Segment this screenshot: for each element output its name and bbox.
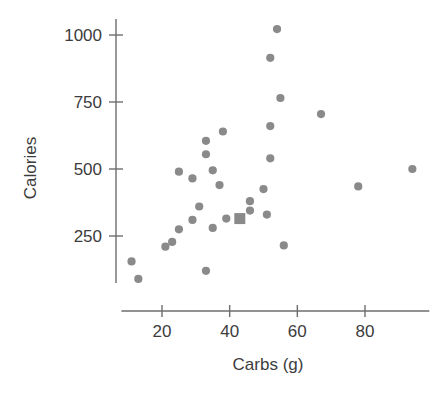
data-point: [195, 202, 203, 210]
x-axis-tick-label: 80: [356, 322, 375, 341]
x-axis: 20406080: [121, 305, 429, 341]
data-point: [202, 267, 210, 275]
y-axis-tick-label: 250: [74, 227, 102, 246]
y-axis-tick-label: 1000: [64, 26, 102, 45]
data-point: [280, 241, 288, 249]
data-point: [188, 174, 196, 182]
y-axis-tick-label: 750: [74, 93, 102, 112]
data-point: [202, 137, 210, 145]
data-point: [188, 216, 196, 224]
data-point: [259, 185, 267, 193]
scatter-plot-figure: 2505007501000 20406080 Calories Carbs (g…: [0, 0, 441, 395]
data-point: [219, 127, 227, 135]
data-point: [161, 243, 169, 251]
data-point: [408, 165, 416, 173]
x-axis-title: Carbs (g): [233, 355, 304, 374]
data-point: [222, 214, 230, 222]
data-point: [273, 25, 281, 33]
data-point: [246, 197, 254, 205]
data-point: [276, 94, 284, 102]
y-axis: 2505007501000: [64, 19, 123, 283]
data-point-square: [234, 213, 245, 224]
data-point: [175, 225, 183, 233]
data-point: [317, 110, 325, 118]
data-point: [209, 224, 217, 232]
x-axis-tick-label: 20: [153, 322, 172, 341]
data-point: [354, 182, 362, 190]
data-point: [215, 181, 223, 189]
y-axis-tick-label: 500: [74, 160, 102, 179]
data-point: [209, 166, 217, 174]
data-point: [202, 150, 210, 158]
data-point: [266, 122, 274, 130]
data-point: [246, 206, 254, 214]
data-point: [263, 210, 271, 218]
y-axis-title: Calories: [21, 137, 40, 199]
data-point: [266, 54, 274, 62]
data-point: [266, 154, 274, 162]
data-point: [134, 275, 142, 283]
data-point: [175, 168, 183, 176]
plot-canvas: 2505007501000 20406080 Calories Carbs (g…: [0, 0, 441, 395]
data-point: [168, 238, 176, 246]
x-axis-tick-label: 40: [220, 322, 239, 341]
data-point: [127, 257, 135, 265]
x-axis-tick-label: 60: [288, 322, 307, 341]
data-points-layer: [127, 25, 416, 283]
